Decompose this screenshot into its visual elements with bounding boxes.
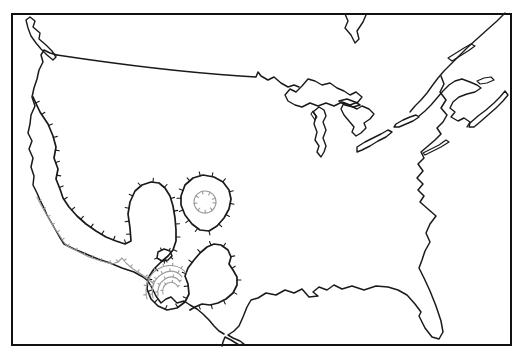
james-bay	[345, 14, 366, 43]
canada-us-border	[57, 55, 299, 87]
map-figure	[0, 0, 524, 359]
lake-ontario	[394, 115, 419, 127]
nova-scotia	[469, 91, 508, 127]
lake-superior	[285, 79, 362, 107]
contour-main-hachured	[33, 97, 237, 310]
lake-erie	[357, 130, 392, 152]
contour-nested-arc-3	[158, 277, 180, 296]
pacific-coast-and-mexico-border	[28, 50, 224, 334]
contour-nested-arc-2	[152, 271, 182, 298]
contour-central-closed-blob	[181, 175, 231, 231]
green-bay	[311, 111, 317, 120]
contour-gray-coastal-ticks	[39, 200, 154, 283]
contour-main-hachured-ticks	[36, 101, 241, 309]
lake-huron	[341, 103, 374, 136]
contour-gray-coastal	[37, 197, 154, 284]
gaspe-new-brunswick-coast	[419, 79, 481, 127]
anticosti-island	[448, 44, 475, 61]
contour-central-closed-blob-ticks	[177, 172, 234, 235]
prince-edward-island	[477, 77, 494, 84]
us-contour-map	[0, 0, 524, 359]
st-lawrence-north-shore	[410, 13, 505, 112]
